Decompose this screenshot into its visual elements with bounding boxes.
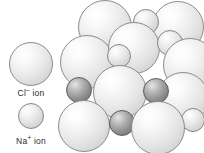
legend-label-chloride: Cl– ion bbox=[0, 86, 62, 98]
nacl-lattice-figure: Cl– ion Na+ ion bbox=[0, 0, 204, 153]
chloride-ion-sphere-icon bbox=[9, 42, 53, 86]
crystal-lattice bbox=[62, 0, 204, 153]
legend-label-sodium-suffix: ion bbox=[31, 136, 46, 146]
lattice-sodium-sphere bbox=[66, 77, 92, 103]
legend-entry-sodium: Na+ ion bbox=[0, 103, 62, 147]
lattice-chloride-sphere bbox=[131, 101, 185, 153]
lattice-chloride-sphere bbox=[58, 100, 110, 152]
legend-label-sodium-symbol: Na bbox=[16, 136, 27, 146]
legend-label-chloride-symbol: Cl bbox=[18, 88, 26, 98]
legend-label-sodium: Na+ ion bbox=[0, 134, 62, 146]
sodium-ion-sphere-icon bbox=[18, 103, 44, 129]
legend-entry-chloride: Cl– ion bbox=[0, 42, 62, 86]
legend: Cl– ion Na+ ion bbox=[0, 0, 62, 153]
legend-sphere-wrap-chloride bbox=[0, 42, 62, 86]
legend-label-chloride-suffix: ion bbox=[30, 88, 45, 98]
